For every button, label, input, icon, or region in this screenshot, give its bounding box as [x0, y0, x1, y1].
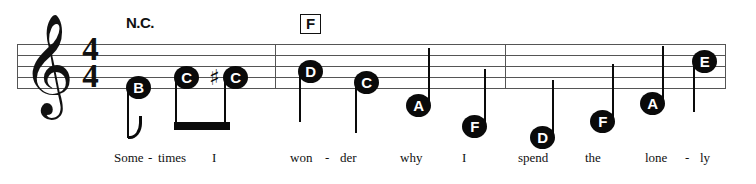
accidental-sharp: ♯: [209, 67, 220, 89]
time-signature: 4 4: [73, 36, 107, 90]
treble-clef-icon: 𝄞: [22, 20, 74, 108]
lyric-syllable: -: [685, 150, 689, 166]
lyric-syllable: times: [158, 150, 186, 166]
note-stem: [428, 48, 430, 106]
staff-line: [17, 55, 726, 56]
chord-symbol: N.C.: [126, 14, 154, 31]
notehead-b: B: [126, 76, 151, 99]
lyric-syllable: won: [290, 150, 312, 166]
lyric-syllable: I: [212, 150, 216, 166]
note-stem: [693, 62, 695, 112]
notehead-c: C: [354, 71, 379, 94]
chord-symbol-boxed: F: [300, 14, 321, 34]
lyric-syllable: the: [585, 150, 601, 166]
notehead-c: C: [223, 66, 248, 89]
notehead-d: D: [298, 60, 323, 83]
lyric-syllable: der: [340, 150, 357, 166]
lyric-syllable: why: [400, 150, 422, 166]
note-stem: [662, 46, 664, 104]
note-stem: [299, 72, 301, 122]
lyric-syllable: -: [148, 150, 152, 166]
lyric-syllable: lone: [645, 150, 667, 166]
barline: [17, 44, 18, 89]
sheet-music-canvas: 𝄞 4 4 N.C.F BCC♯DCAFDFAE Some-timesIwon-…: [0, 0, 756, 184]
lyric-syllable: spend: [518, 150, 548, 166]
lyric-syllable: -: [325, 150, 329, 166]
lyric-syllable: Some: [114, 150, 144, 166]
time-signature-beat-value: 4: [73, 63, 107, 90]
note-flag: [128, 116, 142, 139]
barline: [275, 44, 276, 89]
notehead-c: C: [174, 66, 199, 89]
note-stem: [355, 83, 357, 133]
note-stem: [612, 64, 614, 122]
lyric-syllable: I: [462, 150, 466, 166]
lyric-syllable: ly: [700, 150, 710, 166]
staff-line: [17, 66, 726, 67]
barline: [725, 44, 726, 89]
note-stem: [224, 78, 226, 122]
beam: [174, 122, 230, 130]
notehead-e: E: [692, 50, 717, 73]
note-stem: [552, 80, 554, 138]
staff-line: [17, 44, 726, 45]
note-stem: [484, 69, 486, 127]
note-stem: [175, 78, 177, 122]
barline: [505, 44, 506, 89]
